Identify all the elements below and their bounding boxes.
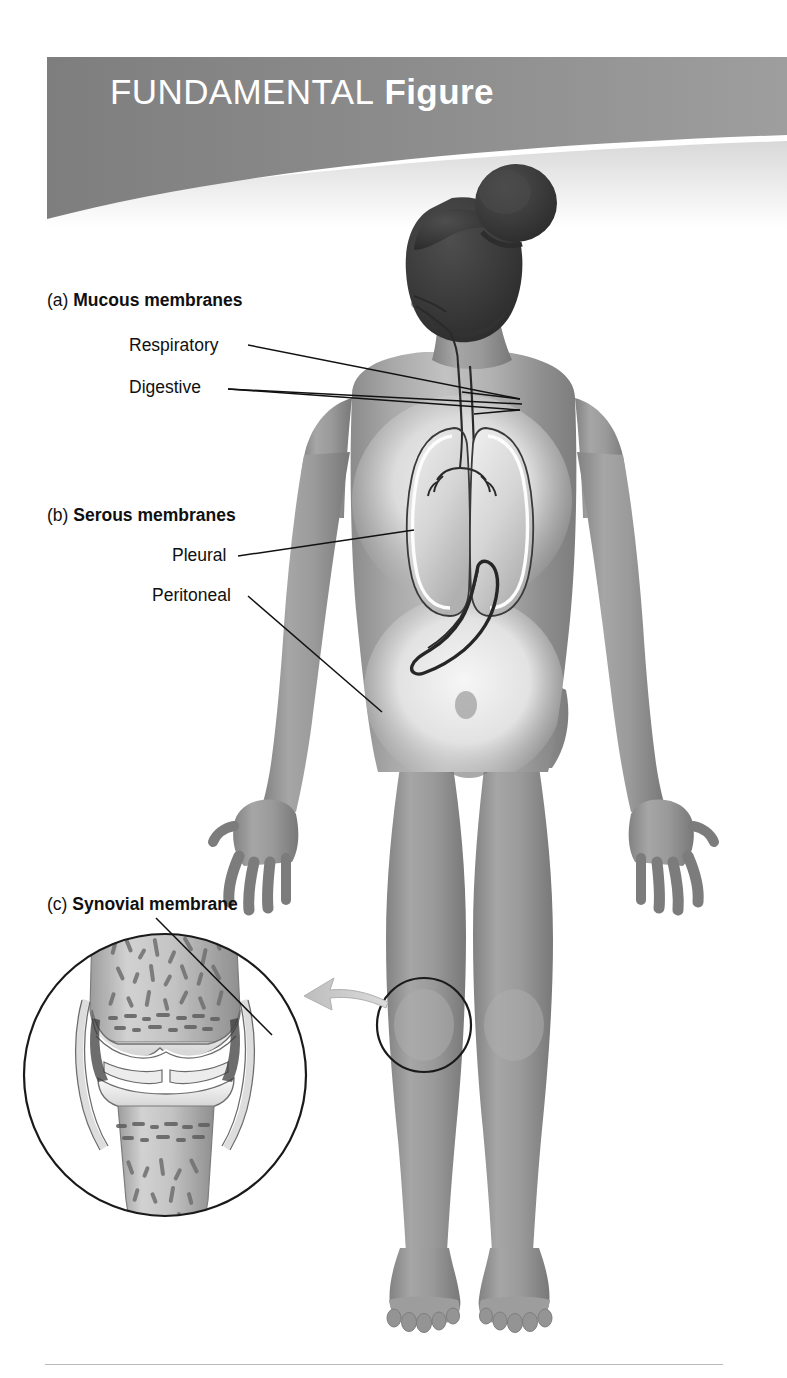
label-synovial-membrane: (c) Synovial membrane	[47, 895, 238, 914]
label-serous-index: (b)	[47, 505, 68, 525]
left-arm	[577, 452, 665, 812]
knee-callout-arrow	[304, 978, 388, 1010]
figure-page: FUNDAMENTAL Figure	[0, 0, 787, 1378]
label-peritoneal: Peritoneal	[152, 586, 231, 605]
body-figure	[213, 164, 714, 1333]
left-hand	[629, 800, 714, 910]
label-synovial-index: (c)	[47, 894, 67, 914]
knee-joint-inset	[24, 930, 306, 1260]
label-serous-title: Serous membranes	[73, 505, 235, 525]
right-foot	[387, 1248, 460, 1333]
label-serous-membranes: (b) Serous membranes	[47, 506, 236, 525]
label-digestive: Digestive	[129, 378, 201, 397]
label-synovial-title: Synovial membrane	[72, 894, 237, 914]
label-mucous-membranes: (a) Mucous membranes	[47, 291, 242, 310]
bottom-divider	[45, 1364, 723, 1365]
right-arm	[262, 452, 350, 812]
abdomen-glow	[364, 595, 564, 785]
left-foot	[479, 1248, 552, 1333]
navel	[455, 691, 477, 719]
anatomical-artwork	[0, 0, 787, 1378]
left-knee-shading	[484, 989, 544, 1061]
label-pleural: Pleural	[172, 546, 226, 565]
label-mucous-title: Mucous membranes	[73, 290, 242, 310]
label-respiratory: Respiratory	[129, 336, 218, 355]
right-knee-shading	[394, 989, 454, 1061]
label-mucous-index: (a)	[47, 290, 68, 310]
tibia	[118, 1106, 214, 1260]
